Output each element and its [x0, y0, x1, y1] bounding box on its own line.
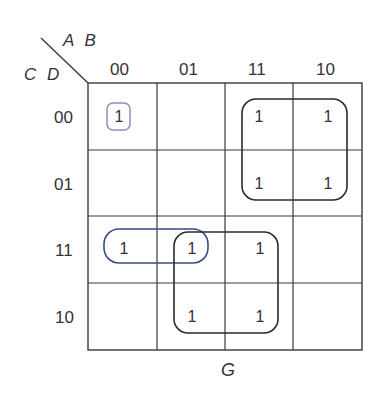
row-header-00: 00 — [54, 109, 73, 126]
cell-r1-c3: 1 — [324, 176, 333, 192]
row-header-01: 01 — [54, 176, 73, 193]
column-header-10: 10 — [316, 61, 335, 78]
cell-r2-c1: 1 — [188, 241, 197, 257]
cell-r0-c0: 1 — [115, 109, 124, 125]
column-header-00: 00 — [110, 61, 129, 78]
cell-r0-c2: 1 — [255, 109, 264, 125]
row-variables-label: C D — [24, 66, 62, 83]
column-header-01: 01 — [179, 61, 198, 78]
cell-r3-c1: 1 — [188, 309, 197, 325]
cell-r3-c2: 1 — [256, 309, 265, 325]
column-header-11: 11 — [248, 61, 266, 78]
cell-r1-c2: 1 — [255, 176, 264, 192]
karnaugh-map: A B C D 00 01 11 10 00 01 11 10 1 1 1 1 … — [0, 0, 391, 406]
cell-r2-c0: 1 — [120, 241, 129, 257]
cell-r2-c2: 1 — [256, 241, 265, 257]
row-header-10: 10 — [55, 309, 74, 326]
function-label: G — [221, 361, 238, 379]
row-header-11: 11 — [55, 242, 73, 259]
cell-r0-c3: 1 — [324, 109, 333, 125]
column-variables-label: A B — [63, 32, 99, 49]
